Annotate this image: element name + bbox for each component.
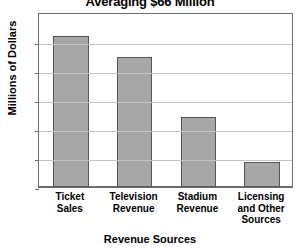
x-axis-title: Revenue Sources xyxy=(0,233,300,245)
plot-area: 0510152025 xyxy=(38,13,293,188)
bar-chart: Averaging $66 Million Millions of Dollar… xyxy=(0,0,300,248)
y-tick-mark xyxy=(35,73,39,74)
y-gridline xyxy=(39,102,292,103)
x-category-label: TelevisionRevenue xyxy=(102,191,166,214)
y-gridline xyxy=(39,160,292,161)
x-label-line: Ticket xyxy=(38,191,102,203)
x-label-line: and Other xyxy=(229,203,293,215)
x-label-line: Sources xyxy=(229,214,293,226)
bar xyxy=(117,57,152,187)
y-tick-mark xyxy=(35,131,39,132)
bars-layer xyxy=(39,14,292,187)
x-label-line: Revenue xyxy=(102,203,166,215)
x-label-line: Stadium xyxy=(166,191,230,203)
y-axis-title: Millions of Dollars xyxy=(6,0,18,138)
y-gridline xyxy=(39,44,292,45)
x-label-line: Licensing xyxy=(229,191,293,203)
x-label-line: Television xyxy=(102,191,166,203)
x-label-line: Revenue xyxy=(166,203,230,215)
x-category-label: Licensingand OtherSources xyxy=(229,191,293,226)
bar xyxy=(53,36,88,187)
y-tick-mark xyxy=(35,102,39,103)
bar xyxy=(181,117,216,187)
chart-title: Averaging $66 Million xyxy=(0,0,300,9)
y-tick-mark xyxy=(35,160,39,161)
y-tick-mark xyxy=(35,189,39,190)
x-category-label: TicketSales xyxy=(38,191,102,214)
x-label-line: Sales xyxy=(38,203,102,215)
x-axis-category-labels: TicketSalesTelevisionRevenueStadiumReven… xyxy=(38,191,293,235)
y-tick-mark xyxy=(35,44,39,45)
y-gridline xyxy=(39,131,292,132)
y-gridline xyxy=(39,73,292,74)
bar xyxy=(244,162,279,187)
x-category-label: StadiumRevenue xyxy=(166,191,230,214)
